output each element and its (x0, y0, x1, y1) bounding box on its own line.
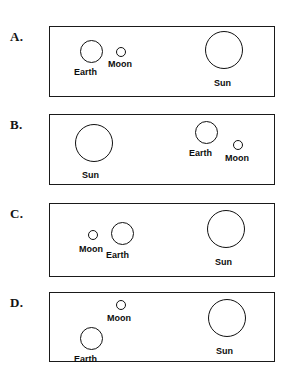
panel-letter-c: C. (10, 207, 23, 220)
label-moon-a: Moon (108, 60, 132, 69)
circle-sun-d (208, 299, 246, 337)
label-earth-b: Earth (189, 149, 212, 158)
label-sun-d: Sun (216, 347, 233, 356)
label-moon-d: Moon (107, 314, 131, 323)
circle-moon-b (233, 140, 243, 150)
panel-letter-a: A. (10, 30, 23, 43)
label-sun-c: Sun (215, 258, 232, 267)
label-sun-b: Sun (82, 171, 99, 180)
label-moon-b: Moon (225, 154, 249, 163)
label-earth-a: Earth (74, 68, 97, 77)
panel-letter-b: B. (10, 118, 23, 131)
circle-earth-b (195, 121, 218, 144)
label-moon-c: Moon (79, 245, 103, 254)
label-earth-c: Earth (106, 251, 129, 260)
circle-moon-c (88, 230, 98, 240)
circle-moon-d (116, 300, 126, 310)
circle-earth-a (80, 40, 103, 63)
label-earth-d: Earth (74, 355, 97, 364)
circle-earth-c (111, 222, 134, 245)
circle-sun-b (75, 124, 113, 162)
panel-letter-d: D. (10, 296, 23, 309)
label-sun-a: Sun (214, 79, 231, 88)
circle-sun-c (207, 210, 245, 248)
circle-earth-d (80, 327, 103, 350)
circle-sun-a (205, 31, 243, 69)
circle-moon-a (116, 47, 126, 57)
multiple-choice-figure: A.EarthMoonSunB.SunEarthMoonC.MoonEarthS… (0, 0, 295, 378)
panel-box-a[interactable] (49, 26, 275, 97)
